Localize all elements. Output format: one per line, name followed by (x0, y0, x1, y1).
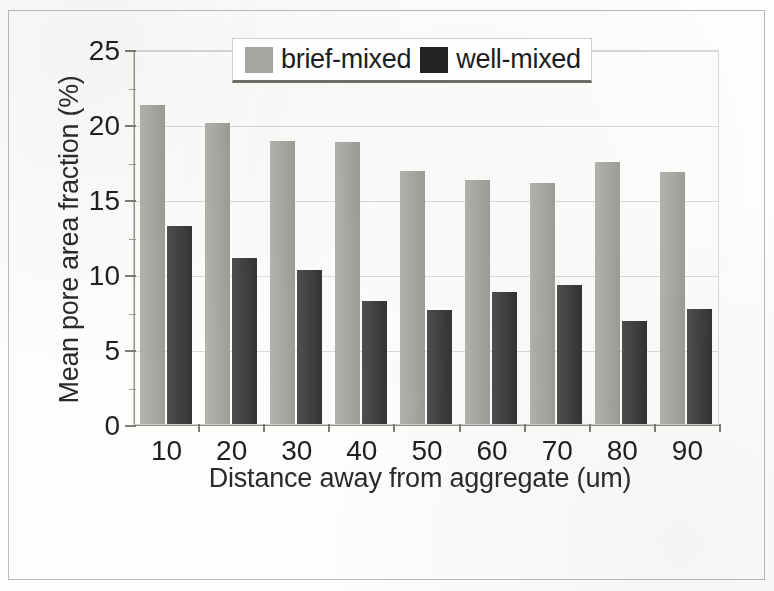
x-axis-tick-mark (524, 424, 526, 432)
y-axis-tick-label: 15 (89, 185, 120, 217)
bar-brief-mixed (660, 172, 685, 424)
y-axis-tick-label: 20 (89, 110, 120, 142)
x-axis-tick-label: 80 (607, 435, 638, 467)
bar-well-mixed (167, 226, 192, 424)
bar-brief-mixed (400, 171, 425, 425)
legend-swatch-gray-icon (245, 47, 273, 73)
y-axis-tick-label: 0 (104, 410, 120, 442)
bar-group (134, 51, 199, 424)
legend-swatch-black-icon (420, 47, 448, 73)
y-axis-tick-label: 10 (89, 260, 120, 292)
bar-well-mixed (622, 321, 647, 425)
y-axis-tick-label: 5 (104, 335, 120, 367)
x-axis-tick-label: 10 (151, 435, 182, 467)
x-axis-tick-mark (459, 424, 461, 432)
bar-brief-mixed (530, 183, 555, 425)
x-axis-tick-label: 20 (216, 435, 247, 467)
bar-well-mixed (557, 285, 582, 425)
bar-brief-mixed (335, 142, 360, 424)
legend-label-well-mixed: well-mixed (456, 44, 581, 75)
bar-well-mixed (297, 270, 322, 425)
x-axis-tick-label: 30 (281, 435, 312, 467)
x-axis-tick-mark (198, 424, 200, 432)
x-axis-title: Distance away from aggregate (um) (100, 463, 740, 494)
x-axis-tick-mark (328, 424, 330, 432)
bar-brief-mixed (140, 105, 165, 425)
x-axis-tick-label: 40 (346, 435, 377, 467)
bar-group (394, 51, 459, 424)
bar-well-mixed (362, 301, 387, 424)
plot-area: 0510152025 102030405060708090 (133, 50, 719, 425)
bar-well-mixed (492, 292, 517, 424)
bar-well-mixed (232, 258, 257, 425)
x-axis-tick-label: 90 (672, 435, 703, 467)
bar-brief-mixed (270, 141, 295, 425)
x-axis-tick-mark (393, 424, 395, 432)
bar-group (655, 51, 720, 424)
bar-group (264, 51, 329, 424)
legend-item-well-mixed: well-mixed (420, 44, 581, 75)
bar-group (329, 51, 394, 424)
y-axis-title: Mean pore area fraction (%) (54, 40, 85, 440)
figure-bar-chart: Mean pore area fraction (%) Distance awa… (0, 0, 774, 591)
bar-brief-mixed (205, 123, 230, 425)
bar-brief-mixed (465, 180, 490, 425)
x-axis-tick-label: 60 (477, 435, 508, 467)
chart-legend: brief-mixed well-mixed (232, 38, 592, 83)
bar-well-mixed (687, 309, 712, 425)
legend-item-brief-mixed: brief-mixed (245, 44, 411, 75)
bar-group (525, 51, 590, 424)
x-axis-tick-mark (654, 424, 656, 432)
bar-brief-mixed (595, 162, 620, 425)
x-axis-tick-label: 70 (542, 435, 573, 467)
bar-well-mixed (427, 310, 452, 424)
legend-label-brief-mixed: brief-mixed (281, 44, 411, 75)
x-axis-tick-mark (589, 424, 591, 432)
x-axis-tick-label: 50 (411, 435, 442, 467)
x-axis-tick-mark (719, 424, 721, 432)
bar-group (460, 51, 525, 424)
bar-group (590, 51, 655, 424)
y-axis-tick-mark (125, 425, 136, 427)
y-axis-tick-label: 25 (89, 35, 120, 67)
bar-group (199, 51, 264, 424)
x-axis-tick-mark (263, 424, 265, 432)
